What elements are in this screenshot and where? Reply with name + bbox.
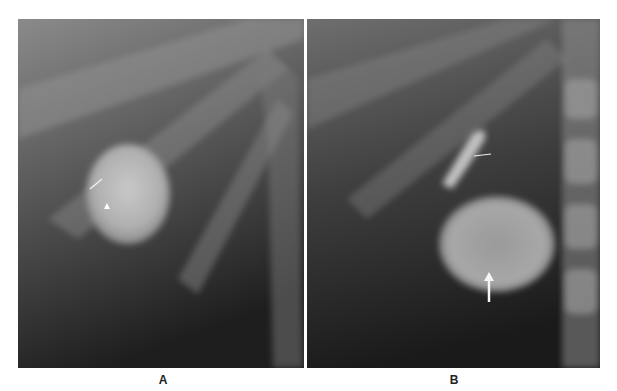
panel-label-b: B bbox=[444, 373, 464, 387]
radiograph-panel-a bbox=[18, 19, 304, 368]
radiograph-panel-b bbox=[307, 19, 600, 368]
panel-label-a: A bbox=[153, 373, 173, 387]
radiograph-image-a bbox=[18, 19, 304, 368]
radiograph-image-b bbox=[307, 19, 600, 368]
